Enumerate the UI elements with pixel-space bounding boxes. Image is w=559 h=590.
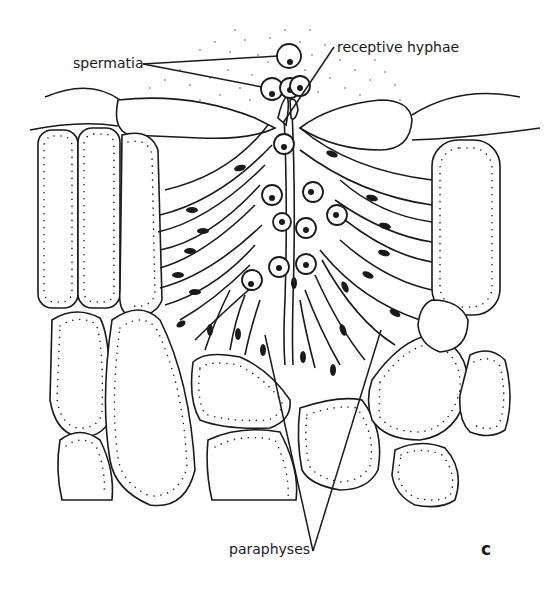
paraphyses-left bbox=[158, 125, 272, 355]
label-paraphyses: paraphyses bbox=[229, 541, 310, 557]
left-cortex-cells bbox=[38, 128, 162, 316]
spermogonium-diagram bbox=[0, 0, 559, 590]
right-cortex-cell bbox=[432, 140, 500, 315]
label-receptive-hyphae: receptive hyphae bbox=[337, 39, 459, 55]
panel-letter: c bbox=[481, 539, 491, 559]
paraphyses-right bbox=[300, 128, 432, 368]
label-spermatia: spermatia bbox=[73, 55, 143, 71]
